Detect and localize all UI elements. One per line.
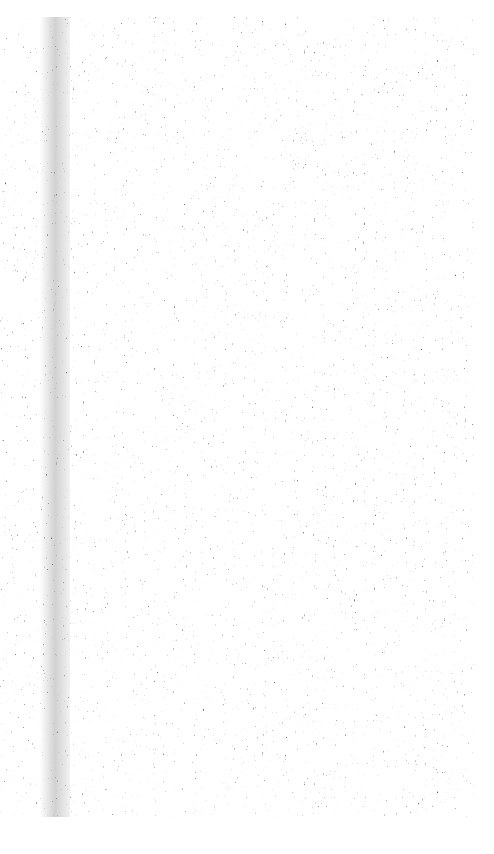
noise-texture — [0, 17, 474, 817]
binding-shadow — [40, 17, 70, 817]
scanned-page: Scanned page with dense speckled noise t… — [0, 17, 474, 817]
